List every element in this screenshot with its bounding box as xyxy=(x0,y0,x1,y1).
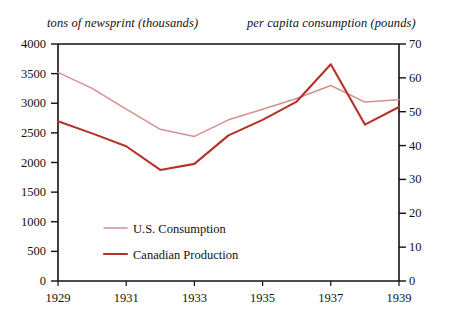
series-line-u-s-consumption xyxy=(58,72,399,136)
legend-item-us-consumption: U.S. Consumption xyxy=(133,222,226,237)
left-tick-3000: 3000 xyxy=(0,97,46,110)
series-lines xyxy=(58,64,399,170)
x-tick-1929: 1929 xyxy=(28,292,88,305)
x-tick-1935: 1935 xyxy=(233,292,293,305)
legend-item-canadian-production: Canadian Production xyxy=(133,248,238,263)
left-tick-500: 500 xyxy=(0,245,46,258)
series-line-canadian-production xyxy=(58,64,399,170)
plot-area xyxy=(0,0,457,324)
left-tick-1000: 1000 xyxy=(0,216,46,229)
right-tick-10: 10 xyxy=(409,241,449,254)
chart-container: tons of newsprint (thousands) per capita… xyxy=(0,0,457,324)
right-tick-30: 30 xyxy=(409,173,449,186)
axis-lines xyxy=(58,44,399,281)
right-tick-70: 70 xyxy=(409,38,449,51)
legend-swatches xyxy=(104,228,127,254)
right-tick-0: 0 xyxy=(409,275,449,288)
right-tick-20: 20 xyxy=(409,207,449,220)
x-tick-1937: 1937 xyxy=(301,292,361,305)
x-tick-1933: 1933 xyxy=(164,292,224,305)
left-tick-1500: 1500 xyxy=(0,186,46,199)
left-tick-4000: 4000 xyxy=(0,38,46,51)
right-tick-60: 60 xyxy=(409,72,449,85)
right-tick-40: 40 xyxy=(409,140,449,153)
left-tick-3500: 3500 xyxy=(0,68,46,81)
right-tick-50: 50 xyxy=(409,106,449,119)
x-tick-1931: 1931 xyxy=(96,292,156,305)
x-tick-1939: 1939 xyxy=(369,292,429,305)
left-tick-2000: 2000 xyxy=(0,157,46,170)
left-tick-0: 0 xyxy=(0,275,46,288)
left-tick-2500: 2500 xyxy=(0,127,46,140)
